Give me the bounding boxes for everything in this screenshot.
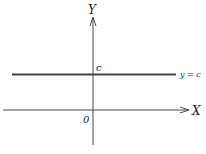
equation-label: y = c	[179, 70, 201, 79]
intercept-label: c	[96, 62, 102, 73]
x-axis-label: X	[191, 104, 201, 118]
coordinate-diagram: Y X 0 c y = c	[0, 0, 206, 154]
origin-label: 0	[83, 114, 90, 125]
y-axis-label: Y	[88, 3, 97, 17]
